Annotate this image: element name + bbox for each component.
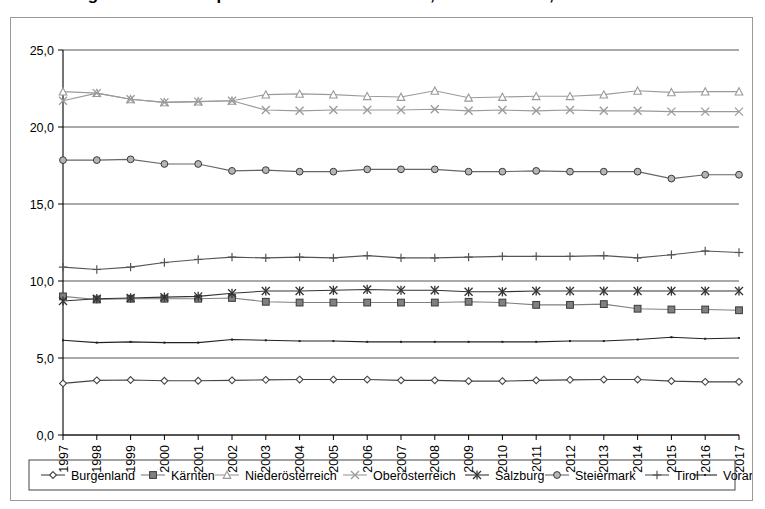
legend-label: Steiermark (575, 469, 636, 483)
data-point-none (569, 340, 571, 342)
data-point-none (501, 341, 503, 343)
data-point-circle (364, 166, 371, 173)
legend-item-burgenland[interactable]: Burgenland (41, 469, 135, 483)
data-point-diamond (668, 378, 675, 385)
data-point-diamond (127, 377, 134, 384)
data-point-circle (93, 157, 100, 164)
data-point-circle (736, 171, 743, 178)
data-point-square-filled (567, 301, 574, 308)
xtick-label: 2009 (462, 445, 476, 473)
ytick-label: 0,0 (37, 429, 54, 443)
data-point-circle (567, 168, 574, 175)
data-point-plus (633, 254, 641, 262)
data-point-plus (262, 254, 270, 262)
data-point-diamond (60, 380, 67, 387)
data-point-none (96, 342, 98, 344)
data-point-square-filled (668, 306, 675, 313)
legend-label: Vorarlberg (723, 469, 752, 483)
legend-label: Burgenland (71, 469, 135, 483)
data-point-plus (59, 263, 67, 271)
data-point-circle (330, 168, 337, 175)
data-point-circle (127, 156, 134, 163)
data-point-square-filled (600, 301, 607, 308)
data-point-plus (160, 258, 168, 266)
data-point-plus (397, 254, 405, 262)
data-point-plus (566, 252, 574, 260)
data-point-plus (464, 253, 472, 261)
data-point-circle (702, 171, 709, 178)
data-point-none (468, 341, 470, 343)
data-point-diamond (702, 378, 709, 385)
data-point-none (738, 337, 740, 339)
data-point-diamond (161, 377, 168, 384)
data-point-diamond (364, 376, 371, 383)
data-point-none (62, 339, 64, 341)
data-point-plus (363, 251, 371, 259)
data-point-diamond (600, 376, 607, 383)
data-point-circle (600, 168, 607, 175)
series-steiermark (60, 156, 743, 182)
data-point-diamond (195, 377, 202, 384)
data-point-circle (195, 161, 202, 168)
legend-label: Salzburg (495, 469, 544, 483)
data-point-circle (465, 168, 472, 175)
data-point-plus (126, 263, 134, 271)
legend-label: Kärnten (171, 469, 215, 483)
data-point-circle (499, 168, 506, 175)
data-point-plus (667, 251, 675, 259)
xtick-label: 2000 (158, 445, 172, 473)
data-point-square-filled (431, 299, 438, 306)
chart-frame: 0,05,010,015,020,025,0199719981999200020… (10, 17, 753, 501)
data-point-none (130, 341, 132, 343)
data-point-square-filled (634, 305, 641, 312)
data-point-plus (329, 254, 337, 262)
data-point-plus (532, 252, 540, 260)
data-point-square-filled (150, 472, 157, 479)
series-vorarlberg (62, 336, 740, 343)
data-point-diamond (736, 378, 743, 385)
data-point-circle (668, 175, 675, 182)
data-point-none (603, 340, 605, 342)
data-point-plus (701, 247, 709, 255)
data-point-circle (431, 166, 438, 173)
data-point-square-filled (499, 299, 506, 306)
ytick-label: 10,0 (30, 275, 54, 289)
data-point-none (704, 338, 706, 340)
data-point-none (366, 341, 368, 343)
data-point-diamond (634, 376, 641, 383)
xtick-label: 2002 (226, 445, 240, 473)
legend-item-salzburg[interactable]: Salzburg (465, 469, 544, 483)
page-title: Abbildung: Arbeitslosenquote nach Bundes… (14, 0, 641, 5)
data-point-none (670, 336, 672, 338)
data-point-none (637, 339, 639, 341)
data-point-diamond (50, 472, 57, 479)
data-point-square-filled (702, 306, 709, 313)
line-chart: 0,05,010,015,020,025,0199719981999200020… (11, 18, 752, 500)
legend-label: Oberösterreich (373, 469, 456, 483)
xtick-label: 1997 (57, 445, 71, 473)
data-point-square-filled (262, 298, 269, 305)
data-point-diamond (93, 377, 100, 384)
data-point-square-filled (296, 299, 303, 306)
series-k-rnten (60, 293, 743, 314)
data-point-square-filled (465, 298, 472, 305)
legend-item-k-rnten[interactable]: Kärnten (141, 469, 215, 483)
data-point-none (163, 342, 165, 344)
legend-item-steiermark[interactable]: Steiermark (545, 469, 636, 483)
data-point-circle (398, 166, 405, 173)
data-point-none (704, 474, 706, 476)
data-point-none (265, 339, 267, 341)
data-point-circle (296, 168, 303, 175)
data-point-none (231, 339, 233, 341)
data-point-plus (228, 253, 236, 261)
data-point-circle (554, 472, 561, 479)
data-point-plus (194, 255, 202, 263)
ytick-label: 15,0 (30, 198, 54, 212)
chart-plot-area: 0,05,010,015,020,025,0199719981999200020… (11, 18, 752, 500)
data-point-plus (653, 471, 661, 479)
legend-label: Niederösterreich (245, 469, 337, 483)
data-point-none (332, 340, 334, 342)
ytick-label: 25,0 (30, 44, 54, 58)
data-point-none (535, 341, 537, 343)
data-point-none (197, 342, 199, 344)
